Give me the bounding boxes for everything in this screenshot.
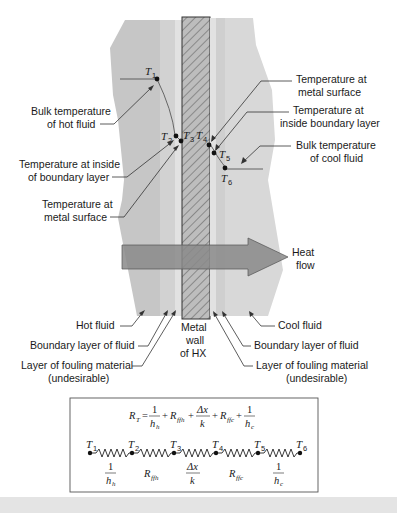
svg-text:6: 6 bbox=[303, 444, 307, 453]
label-wall-3: of HX bbox=[180, 347, 206, 359]
label-inside-bl-cool-2: inside boundary layer bbox=[280, 117, 380, 129]
heat-exchanger-diagram: Heat flow T 1 T 2 T 3 T 4 T 5 T 6 Bulk t… bbox=[0, 0, 397, 513]
label-bulk-hot-1: Bulk temperature bbox=[31, 105, 111, 117]
svg-text:4: 4 bbox=[219, 444, 223, 453]
svg-text:T: T bbox=[196, 129, 203, 141]
svg-text:Δx: Δx bbox=[196, 404, 208, 415]
cool-fouling-layer bbox=[210, 18, 216, 316]
svg-text:+: + bbox=[162, 410, 168, 421]
svg-text:T: T bbox=[212, 438, 219, 450]
svg-text:1: 1 bbox=[247, 404, 252, 415]
svg-text:=: = bbox=[142, 410, 148, 421]
label-bulk-hot-2: of hot fluid bbox=[47, 118, 96, 130]
svg-text:h: h bbox=[245, 418, 250, 429]
label-bulk-cool-2: of cool fluid bbox=[310, 152, 363, 164]
hot-fouling-layer bbox=[175, 20, 182, 316]
svg-text:T: T bbox=[254, 438, 261, 450]
svg-text:+: + bbox=[188, 410, 194, 421]
svg-text:R: R bbox=[169, 410, 177, 421]
svg-text:k: k bbox=[200, 418, 205, 429]
label-fouling-right-1: Layer of fouling material bbox=[256, 359, 368, 371]
label-bulk-cool-1: Bulk temperature bbox=[296, 139, 376, 151]
t4-point bbox=[207, 143, 212, 148]
svg-text:1: 1 bbox=[152, 71, 156, 80]
svg-text:+: + bbox=[212, 410, 218, 421]
svg-text:ffh: ffh bbox=[151, 474, 159, 482]
svg-text:T: T bbox=[296, 438, 303, 450]
svg-text:6: 6 bbox=[228, 178, 232, 187]
svg-text:k: k bbox=[190, 475, 195, 486]
label-metal-surface-cool-2: metal surface bbox=[298, 86, 361, 98]
svg-text:T: T bbox=[145, 65, 152, 77]
svg-text:h: h bbox=[156, 423, 160, 431]
label-cool-fluid: Cool fluid bbox=[278, 319, 322, 331]
label-bl-left: Boundary layer of fluid bbox=[30, 339, 135, 351]
hot-boundary-layer bbox=[160, 20, 175, 316]
label-fouling-right-2: (undesirable) bbox=[286, 372, 347, 384]
svg-text:T: T bbox=[170, 438, 177, 450]
t5-point bbox=[212, 151, 217, 156]
heat-flow-label-2: flow bbox=[296, 259, 315, 271]
svg-text:1: 1 bbox=[108, 461, 113, 472]
svg-text:R: R bbox=[143, 468, 151, 479]
svg-text:4: 4 bbox=[203, 135, 207, 144]
svg-text:T: T bbox=[86, 438, 93, 450]
svg-text:h: h bbox=[106, 475, 111, 486]
svg-text:5: 5 bbox=[261, 444, 265, 453]
label-inside-bl-hot-1: Temperature at inside bbox=[19, 158, 120, 170]
label-inside-bl-hot-2: of boundary layer bbox=[28, 171, 110, 183]
svg-text:R: R bbox=[228, 468, 236, 479]
label-bl-right: Boundary layer of fluid bbox=[254, 339, 359, 351]
label-inside-bl-cool-1: Temperature at bbox=[293, 104, 364, 116]
svg-text:ffc: ffc bbox=[227, 416, 235, 424]
label-metal-surface-hot-2: metal surface bbox=[44, 211, 107, 223]
svg-text:2: 2 bbox=[135, 444, 139, 453]
svg-text:R: R bbox=[128, 410, 136, 421]
svg-text:T: T bbox=[219, 148, 226, 160]
svg-text:ffc: ffc bbox=[236, 474, 244, 482]
svg-text:ffh: ffh bbox=[177, 416, 185, 424]
label-metal-surface-cool-1: Temperature at bbox=[296, 73, 367, 85]
label-wall-1: Metal bbox=[181, 321, 207, 333]
label-fouling-left-2: (undesirable) bbox=[48, 372, 109, 384]
svg-text:h: h bbox=[112, 480, 116, 488]
svg-text:1: 1 bbox=[93, 444, 97, 453]
svg-text:1: 1 bbox=[152, 404, 157, 415]
svg-text:T: T bbox=[221, 172, 228, 184]
heat-flow-label-1: Heat bbox=[292, 246, 314, 258]
label-wall-2: wall bbox=[185, 334, 204, 346]
label-hot-fluid: Hot fluid bbox=[76, 319, 115, 331]
label-metal-surface-hot-1: Temperature at bbox=[42, 198, 113, 210]
label-fouling-left-1: Layer of fouling material bbox=[21, 359, 133, 371]
page-bottom-band bbox=[0, 497, 397, 513]
svg-text:+: + bbox=[236, 410, 242, 421]
t6-point bbox=[223, 166, 228, 171]
svg-text:3: 3 bbox=[190, 135, 194, 144]
svg-text:T: T bbox=[183, 129, 190, 141]
svg-text:3: 3 bbox=[177, 444, 181, 453]
svg-text:h: h bbox=[274, 475, 279, 486]
t2-point bbox=[174, 134, 179, 139]
svg-text:h: h bbox=[150, 418, 155, 429]
svg-text:R: R bbox=[219, 410, 227, 421]
svg-text:1: 1 bbox=[276, 461, 281, 472]
svg-text:Δx: Δx bbox=[186, 461, 198, 472]
svg-text:T: T bbox=[161, 130, 168, 142]
svg-text:T: T bbox=[128, 438, 135, 450]
svg-text:5: 5 bbox=[226, 154, 230, 163]
metal-wall bbox=[182, 17, 210, 319]
